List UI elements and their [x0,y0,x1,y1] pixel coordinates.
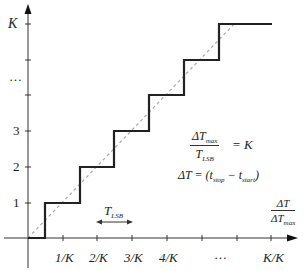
eq1-fraction: ΔTmax TLSB [190,129,219,162]
eq2-sub-stop: stop [213,176,225,184]
eq1-num-main: ΔT [192,129,206,143]
y-label-dots: … [9,70,22,83]
y-label-1: 1 [13,196,20,209]
x-axis-numerator: ΔT [271,197,295,211]
x-axis-label-fraction: ΔT ΔTmax [271,197,295,224]
x-axis-den-main: ΔT [271,212,284,224]
x-label-dots: … [214,248,227,261]
y-label-3: 3 [13,124,20,137]
y-label-k: K [8,17,17,31]
eq2-end: ) [255,168,259,182]
eq1-rhs: = K [232,138,253,151]
eq2: ΔT = (tstop − tstart) [178,169,259,181]
eq2-lhs: ΔT = (t [178,168,213,182]
y-label-2: 2 [13,160,20,173]
x-axis-den-sub: max [284,219,296,227]
x-label-3k: 3/K [124,251,143,264]
x-axis-denominator: ΔTmax [271,211,295,224]
arrow-left-icon [96,220,102,225]
staircase-line [28,24,272,238]
x-label-1k: 1/K [55,251,74,264]
eq1-denominator: TLSB [190,146,219,162]
eq2-mid: − t [225,168,242,182]
eq1-den-sub: LSB [202,155,214,163]
y-axis-arrow-icon [25,4,32,14]
tlsb-label: TLSB [104,204,123,217]
transfer-diagram [0,0,304,271]
x-label-kk: K/K [263,251,284,264]
tlsb-sub: LSB [111,212,123,220]
eq2-sub-start: start [242,176,255,184]
arrow-right-icon [127,220,133,225]
x-label-4k: 4/K [159,251,178,264]
eq1-numerator: ΔTmax [190,129,219,146]
x-axis-arrow-icon [287,235,298,242]
x-label-2k: 2/K [89,251,108,264]
eq1-num-sub: max [206,137,218,145]
